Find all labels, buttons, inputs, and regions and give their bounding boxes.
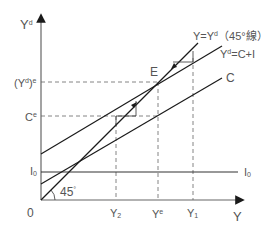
aggregate-demand-label: Yd=C+I [220,48,255,60]
adjustment-steps [116,51,193,126]
yde-tick-label: (Yd)e [14,77,36,89]
angle-arc [51,190,55,200]
ye-tick-label: Ye [152,208,163,220]
aggregate-demand-line [41,46,222,154]
y2-tick-label: Y2 [110,208,121,219]
line-45-label: Y=Yd（45°線） [193,30,268,42]
y1-tick-label: Y1 [187,208,198,219]
origin-label: 0 [27,207,34,219]
y-axis-label: Yd [20,18,33,31]
arrow-down-icon [171,63,177,69]
dashed-guides [41,58,193,200]
consumption-label: C [226,72,235,84]
x-axis-label: Y [233,210,242,223]
equilibrium-point-label: E [150,66,158,78]
ce-tick-label: Ce [25,111,37,123]
angle-label: 45° [60,186,76,198]
consumption-line [41,78,222,184]
i0-tick-label: I0 [30,166,37,177]
investment-label: I0 [244,167,251,178]
